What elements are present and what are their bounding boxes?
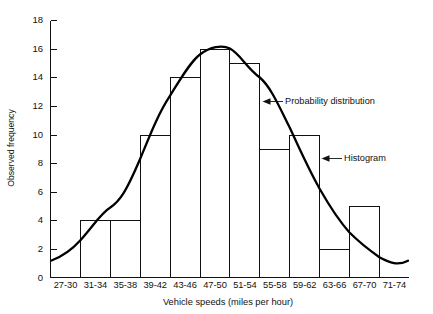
histogram-outline-path [80, 49, 379, 277]
x-tick-label-39-42: 39-42 [143, 280, 167, 290]
y-axis-ticks [51, 21, 58, 250]
y-tick-label-0: 0 [38, 272, 43, 283]
x-axis-title: Vehicle speeds (miles per hour) [163, 297, 293, 307]
y-axis-label: Observed frequency [6, 109, 16, 187]
x-tick-label-63-66: 63-66 [323, 280, 347, 290]
y-tick-label-8: 8 [38, 157, 43, 168]
y-tick-label-12: 12 [32, 100, 43, 111]
x-tick-label-55-58: 55-58 [263, 280, 287, 290]
x-tick-label-31-34: 31-34 [84, 280, 108, 290]
y-tick-label-6: 6 [38, 186, 43, 197]
histogram-chart: Observed frequency 0 2 4 6 8 10 12 14 16… [0, 0, 433, 314]
y-tick-label-16: 16 [32, 43, 43, 54]
x-tick-label-47-50: 47-50 [203, 280, 227, 290]
y-tick-label-4: 4 [38, 214, 43, 225]
x-tick-label-43-46: 43-46 [173, 280, 197, 290]
histogram-bars [80, 49, 379, 277]
chart-figure: Observed frequency 0 2 4 6 8 10 12 14 16… [0, 0, 433, 314]
y-tick-label-18: 18 [32, 14, 43, 25]
y-axis-label-text: Observed frequency [6, 109, 16, 187]
probability-distribution-arrow-icon [263, 98, 271, 104]
y-tick-label-10: 10 [32, 129, 43, 140]
x-tick-label-71-74: 71-74 [383, 280, 407, 290]
x-tick-label-35-38: 35-38 [114, 280, 138, 290]
probability-distribution-annotation-label: Probability distribution [285, 96, 375, 106]
x-tick-label-67-70: 67-70 [353, 280, 377, 290]
x-tick-label-27-30: 27-30 [54, 280, 78, 290]
histogram-annotation-label: Histogram [344, 153, 386, 163]
y-tick-label-2: 2 [38, 243, 43, 254]
y-tick-label-14: 14 [32, 71, 43, 82]
x-tick-label-51-54: 51-54 [233, 280, 257, 290]
x-axis-tick-labels: 27-30 31-34 35-38 39-42 43-46 47-50 51-5… [54, 280, 406, 290]
annotation-histogram: Histogram [322, 153, 387, 163]
histogram-arrow-icon [322, 155, 330, 161]
y-axis-tick-labels: 0 2 4 6 8 10 12 14 16 18 [32, 14, 43, 282]
x-tick-label-59-62: 59-62 [293, 280, 317, 290]
